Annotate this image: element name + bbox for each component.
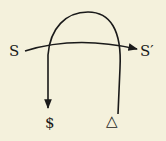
label-delta: △ (106, 114, 118, 129)
label-s: S (9, 44, 19, 59)
label-s-prime: S′ (140, 44, 154, 59)
retroversion-loop (48, 12, 120, 114)
label-barred-subject: $ (45, 116, 55, 131)
diagram-canvas (0, 0, 166, 141)
